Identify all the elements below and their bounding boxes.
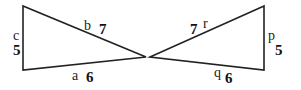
side-a-letter: a [72, 68, 79, 83]
side-r-length: 7 [190, 21, 198, 37]
side-r-letter: r [203, 16, 208, 31]
side-a-length: 6 [86, 69, 94, 85]
side-c-letter: c [13, 28, 19, 43]
side-b-length: 7 [99, 21, 107, 37]
left-triangle [23, 6, 146, 70]
side-b-letter: b [84, 18, 91, 33]
side-q-length: 6 [225, 70, 233, 86]
side-c-length: 5 [13, 42, 21, 58]
diagram-canvas: c 5 b 7 a 6 7 r p 5 q 6 [0, 0, 301, 90]
side-p-letter: p [268, 28, 275, 43]
side-p-length: 5 [275, 42, 283, 58]
side-q-letter: q [214, 65, 221, 80]
